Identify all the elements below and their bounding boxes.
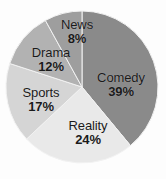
pie-label-news-name: News xyxy=(61,18,93,32)
pie-chart-screenshot: Comedy 39% Reality 24% Sports 17% Drama … xyxy=(0,0,166,179)
pie-label-reality-name: Reality xyxy=(68,119,107,133)
pie-label-sports: Sports 17% xyxy=(23,86,60,113)
pie-label-reality: Reality 24% xyxy=(68,119,107,146)
pie-label-news: News 8% xyxy=(61,18,93,45)
pie-label-news-value: 8% xyxy=(61,32,93,46)
pie-label-comedy-value: 39% xyxy=(97,85,145,99)
pie-label-sports-value: 17% xyxy=(23,100,60,114)
pie-label-sports-name: Sports xyxy=(23,86,60,100)
pie-label-comedy: Comedy 39% xyxy=(97,71,145,98)
pie-label-drama-value: 12% xyxy=(32,60,71,74)
pie-label-drama: Drama 12% xyxy=(32,46,71,73)
pie-label-drama-name: Drama xyxy=(32,46,71,60)
pie-label-reality-value: 24% xyxy=(68,133,107,147)
pie-label-comedy-name: Comedy xyxy=(97,71,145,85)
